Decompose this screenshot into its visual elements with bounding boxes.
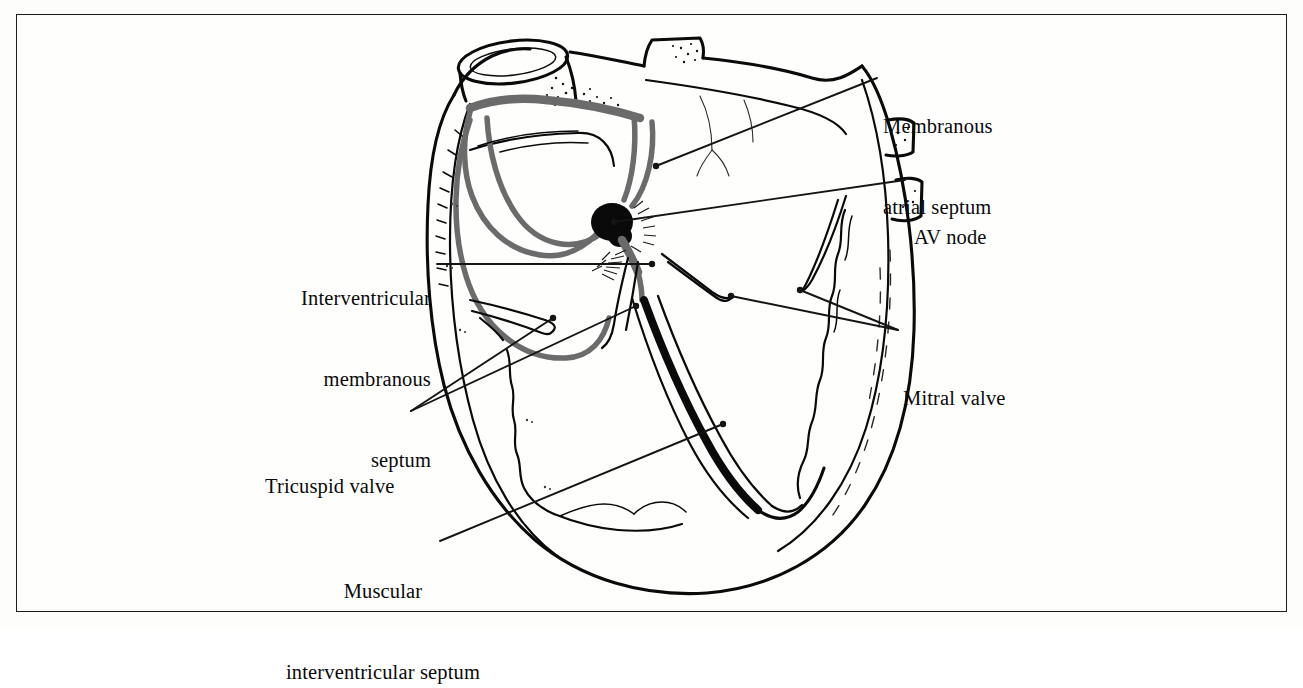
tricuspid-valve-leaflets [470, 258, 638, 348]
leader-interventricular-membranous-septum [437, 261, 655, 267]
label-mitral-valve: Mitral valve [903, 331, 1006, 466]
leader-mitral-valve [728, 287, 898, 330]
leader-tricuspid-valve [411, 303, 639, 411]
label-line-2: membranous [0, 366, 431, 393]
leader-lines [411, 78, 905, 541]
leader-av-node [611, 180, 905, 225]
label-line-1: Tricuspid valve [265, 473, 395, 500]
muscular-interventricular-septum [632, 296, 824, 518]
endocardial-inner-outline [450, 80, 888, 556]
atrial-vessel-branches [697, 96, 753, 176]
myocardium-texture [828, 250, 891, 522]
label-line-1: Mitral valve [903, 385, 1006, 412]
label-line-1: Interventricular [0, 285, 431, 312]
label-line-2: interventricular septum [264, 659, 502, 686]
label-line-1: AV node [914, 224, 987, 251]
pulmonary-vein-stump-top [644, 38, 704, 66]
label-av-node: AV node [914, 170, 987, 305]
label-line-1: Membranous [883, 113, 993, 140]
epicardial-outline [427, 49, 914, 594]
label-line-1: Muscular [264, 578, 502, 605]
label-muscular-interventricular-septum: Muscular interventricular septum [264, 524, 502, 688]
leader-membranous-atrial-septum [653, 78, 877, 169]
